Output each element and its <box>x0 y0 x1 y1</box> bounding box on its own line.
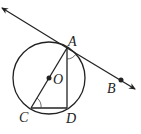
label-b: B <box>107 81 116 96</box>
tangent-line-ab-right <box>67 48 135 89</box>
label-a: A <box>67 34 77 49</box>
label-o: O <box>53 72 63 87</box>
geometry-diagram: A O B C D <box>0 0 141 134</box>
tangent-line-ab <box>2 8 67 48</box>
angle-mark-c <box>37 98 41 108</box>
label-d: D <box>65 111 76 126</box>
point-o-dot <box>47 76 52 81</box>
label-c: C <box>19 110 29 125</box>
point-b-dot <box>119 78 124 83</box>
angle-mark-a <box>67 54 76 59</box>
diagram-canvas: A O B C D <box>0 0 141 134</box>
